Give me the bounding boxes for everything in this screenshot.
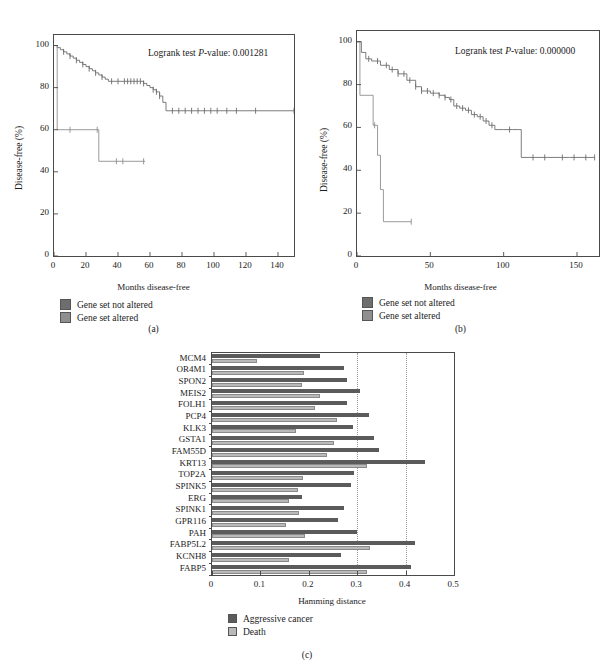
bar-death bbox=[212, 511, 299, 515]
panel-a-x-axis-label: Months disease-free bbox=[0, 282, 307, 292]
legend-swatch-death-icon bbox=[228, 627, 237, 636]
gene-label: MCM4 bbox=[133, 353, 206, 363]
y-tick-label: 0 bbox=[25, 249, 49, 259]
survival-curve-not-altered bbox=[357, 42, 595, 158]
panel-a-survival-curves bbox=[54, 35, 294, 256]
y-tick-label: 20 bbox=[25, 207, 49, 217]
panel-b-y-axis-label: Disease-free (%) bbox=[319, 128, 329, 192]
panel-b-pvalue-annotation: Logrank test P-value: 0.000000 bbox=[455, 46, 575, 56]
bar-death bbox=[212, 441, 334, 445]
y-tick-label: 100 bbox=[328, 35, 352, 45]
panel-b-plot-area bbox=[356, 30, 600, 257]
y-tick-label: 60 bbox=[25, 123, 49, 133]
bar-aggressive-cancer bbox=[212, 436, 374, 440]
category-tick bbox=[209, 423, 212, 424]
x-tick-label: 0.1 bbox=[243, 579, 275, 589]
bar-aggressive-cancer bbox=[212, 354, 320, 358]
bar-death bbox=[212, 394, 320, 398]
legend-swatch-not-altered-icon bbox=[362, 297, 373, 308]
panel-a-plot-area bbox=[53, 34, 295, 257]
legend-label-altered: Gene set altered bbox=[379, 310, 440, 322]
panel-c-letter: (c) bbox=[0, 650, 614, 660]
x-tick bbox=[357, 571, 358, 575]
panel-b-x-axis-label: Months disease-free bbox=[307, 282, 614, 292]
x-tick-label: 100 bbox=[199, 260, 227, 270]
category-tick bbox=[209, 481, 212, 482]
bar-aggressive-cancer bbox=[212, 553, 341, 557]
bar-death bbox=[212, 488, 298, 492]
panel-a-legend: Gene set not altered Gene set altered bbox=[60, 298, 153, 324]
y-tick-label: 80 bbox=[25, 81, 49, 91]
bar-aggressive-cancer bbox=[212, 401, 347, 405]
x-tick-label: 0.4 bbox=[389, 579, 421, 589]
y-tick-label: 40 bbox=[328, 163, 352, 173]
legend-swatch-altered-icon bbox=[60, 312, 71, 323]
bar-chart-x-axis-label: Hamming distance bbox=[211, 596, 453, 606]
x-tick bbox=[260, 571, 261, 575]
bar-death bbox=[212, 464, 367, 468]
category-tick bbox=[209, 504, 212, 505]
gene-label: MEIS2 bbox=[133, 388, 206, 398]
category-tick bbox=[209, 551, 212, 552]
x-tick-label: 20 bbox=[71, 260, 99, 270]
category-tick bbox=[209, 388, 212, 389]
x-tick-label: 0.3 bbox=[340, 579, 372, 589]
bar-death bbox=[212, 570, 367, 574]
gene-label: KLK3 bbox=[133, 423, 206, 433]
panel-a-pvalue-prefix: Logrank test bbox=[148, 48, 198, 58]
legend-swatch-not-altered-icon bbox=[60, 299, 71, 310]
gene-label: PAH bbox=[133, 528, 206, 538]
bar-aggressive-cancer bbox=[212, 471, 354, 475]
legend-label-aggressive-cancer: Aggressive cancer bbox=[243, 613, 313, 625]
x-tick bbox=[406, 571, 407, 575]
y-tick-label: 20 bbox=[328, 206, 352, 216]
legend-label-not-altered: Gene set not altered bbox=[379, 297, 455, 309]
x-tick-label: 80 bbox=[167, 260, 195, 270]
bar-aggressive-cancer bbox=[212, 518, 338, 522]
panel-b-pvalue-value: -value: 0.000000 bbox=[511, 46, 575, 56]
x-tick-label: 0 bbox=[39, 260, 67, 270]
panel-a-kaplan-meier: Disease-free (%) Months disease-free Log… bbox=[0, 0, 307, 333]
category-tick bbox=[209, 364, 212, 365]
x-tick-label: 140 bbox=[263, 260, 291, 270]
bar-aggressive-cancer bbox=[212, 413, 369, 417]
bar-death bbox=[212, 523, 286, 527]
x-tick-label: 60 bbox=[135, 260, 163, 270]
legend-item-altered: Gene set altered bbox=[60, 311, 153, 324]
bar-aggressive-cancer bbox=[212, 565, 411, 569]
bar-aggressive-cancer bbox=[212, 448, 379, 452]
category-tick bbox=[209, 446, 212, 447]
panel-c-legend: Aggressive cancer Death bbox=[228, 612, 313, 638]
bar-death bbox=[212, 476, 303, 480]
gene-label: FOLH1 bbox=[133, 399, 206, 409]
panel-b-survival-curves bbox=[357, 31, 599, 256]
bar-aggressive-cancer bbox=[212, 530, 357, 534]
x-tick-label: 0.2 bbox=[292, 579, 324, 589]
bar-aggressive-cancer bbox=[212, 495, 302, 499]
category-tick bbox=[209, 563, 212, 564]
gene-label: ERG bbox=[133, 493, 206, 503]
bar-aggressive-cancer bbox=[212, 378, 347, 382]
gene-label: PCP4 bbox=[133, 411, 206, 421]
bar-death bbox=[212, 453, 327, 457]
bar-death bbox=[212, 546, 370, 550]
category-tick bbox=[209, 516, 212, 517]
bar-death bbox=[212, 429, 296, 433]
x-tick-label: 40 bbox=[103, 260, 131, 270]
legend-label-altered: Gene set altered bbox=[77, 312, 138, 324]
legend-label-not-altered: Gene set not altered bbox=[77, 299, 153, 311]
y-tick-label: 80 bbox=[328, 78, 352, 88]
legend-item-death: Death bbox=[228, 625, 313, 638]
bar-death bbox=[212, 534, 305, 538]
survival-curve-altered bbox=[54, 46, 145, 162]
x-tick-label: 50 bbox=[415, 260, 443, 270]
survival-curve-altered bbox=[357, 42, 411, 222]
category-tick bbox=[209, 539, 212, 540]
category-tick bbox=[209, 434, 212, 435]
x-tick-label: 100 bbox=[489, 260, 517, 270]
category-tick bbox=[209, 458, 212, 459]
bar-death bbox=[212, 558, 289, 562]
bar-death bbox=[212, 371, 304, 375]
legend-item-altered: Gene set altered bbox=[362, 309, 455, 322]
x-tick bbox=[309, 571, 310, 575]
